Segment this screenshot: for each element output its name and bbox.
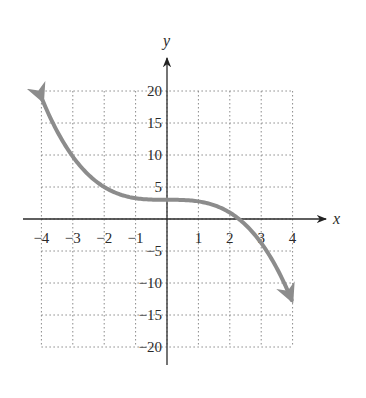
y-tick-label: −15 bbox=[139, 307, 162, 323]
x-tick-label: −3 bbox=[65, 230, 81, 246]
y-axis-label: y bbox=[161, 32, 171, 50]
x-tick-label: −1 bbox=[128, 230, 144, 246]
x-axis-label: x bbox=[332, 210, 340, 227]
y-tick-label: 20 bbox=[147, 83, 162, 99]
cubic-function-graph: −4−3−2−112342015105−5−10−15−20 x y bbox=[0, 0, 366, 398]
y-tick-label: 15 bbox=[147, 115, 162, 131]
y-tick-label: −20 bbox=[139, 339, 162, 355]
y-tick-label: −5 bbox=[146, 243, 162, 259]
y-tick-label: 10 bbox=[147, 147, 162, 163]
axes bbox=[23, 58, 326, 365]
y-tick-label: −10 bbox=[139, 275, 162, 291]
x-tick-label: 2 bbox=[226, 230, 234, 246]
y-tick-label: 5 bbox=[155, 179, 163, 195]
x-tick-label: 4 bbox=[289, 230, 297, 246]
x-tick-label: −4 bbox=[33, 230, 49, 246]
x-tick-label: 1 bbox=[195, 230, 203, 246]
x-tick-label: −2 bbox=[96, 230, 112, 246]
